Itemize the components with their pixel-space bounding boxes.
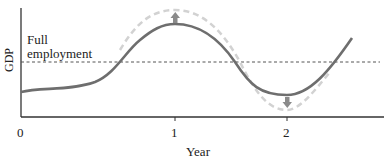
x-axis-label: Year — [186, 145, 210, 159]
x-tick-label-0: 0 — [17, 126, 24, 140]
y-axis-label: GDP — [2, 48, 16, 72]
x-tick-label-2: 2 — [283, 126, 290, 140]
arrow-down-icon — [283, 97, 293, 108]
business-cycle-diagram — [0, 0, 386, 162]
amplified-cycle-curve — [120, 10, 330, 110]
x-tick-label-1: 1 — [171, 126, 178, 140]
full-employment-label-2: employment — [27, 47, 92, 61]
full-employment-label-1: Full — [27, 33, 48, 47]
arrow-up-icon — [171, 12, 181, 23]
